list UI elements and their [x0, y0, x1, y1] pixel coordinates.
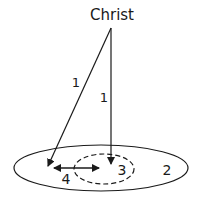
label-inner-region: 3 [118, 162, 127, 178]
label-outer-region: 2 [163, 162, 172, 178]
label-left-path: 1 [72, 75, 80, 90]
title-christ: Christ [90, 6, 134, 24]
label-vertical-path: 1 [100, 90, 108, 105]
diagram-canvas: Christ 1 1 3 2 4 [0, 0, 200, 203]
label-horizontal-relation: 4 [62, 171, 71, 187]
